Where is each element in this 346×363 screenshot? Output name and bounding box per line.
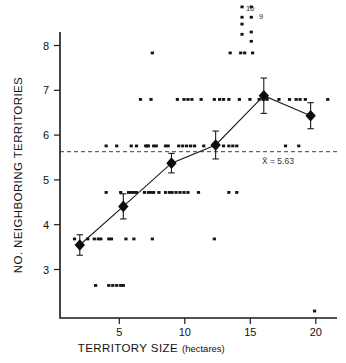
scatter-point: [157, 191, 160, 194]
scatter-point: [182, 191, 185, 194]
scatter-point: [213, 98, 216, 101]
x-tick-5: 5: [116, 326, 122, 338]
scatter-point: [189, 145, 192, 148]
scatter-point: [227, 145, 230, 148]
scatter-point: [176, 98, 179, 101]
offscale-point: [250, 16, 253, 19]
scatter-point: [177, 145, 180, 148]
scatter-point: [132, 238, 135, 241]
y-axis-title: NO. NEIGHBORING TERRITORIES: [12, 77, 24, 273]
mean-reference-label: X̄ = 5.63: [262, 156, 294, 166]
scatter-point: [227, 98, 230, 101]
scatter-point: [105, 191, 108, 194]
scatter-point: [197, 191, 200, 194]
scatter-point: [304, 98, 307, 101]
scatter-point: [190, 98, 193, 101]
scatter-point: [149, 98, 152, 101]
x-tick-20: 20: [310, 326, 322, 338]
scatter-point: [239, 52, 242, 55]
scatter-point: [181, 145, 184, 148]
scatter-point: [178, 191, 181, 194]
scatter-point: [240, 23, 243, 26]
scatter-point: [326, 98, 329, 101]
scatter-point: [94, 284, 97, 287]
scatter-point: [130, 145, 133, 148]
scatter-point: [248, 98, 251, 101]
axis-lines: [60, 32, 337, 318]
y-tick-8: 8: [43, 40, 49, 52]
scatter-point: [284, 145, 287, 148]
scatter-point: [110, 238, 113, 241]
scatter-point: [297, 145, 300, 148]
offscale-label-9: 9: [259, 12, 263, 21]
offscale-point: [240, 16, 243, 19]
scatter-point: [250, 31, 253, 34]
scatter-point: [277, 98, 280, 101]
scatter-point: [229, 52, 232, 55]
offscale-point: [250, 6, 253, 9]
scatter-point: [124, 238, 127, 241]
x-axis-unit: (hectares): [182, 343, 225, 354]
x-tick-15: 15: [244, 326, 256, 338]
offscale-point: [240, 6, 243, 9]
binned-mean-layer: [75, 78, 316, 255]
mean-trend-line: [80, 96, 311, 245]
scatter-point: [164, 191, 167, 194]
scatter-point: [250, 40, 253, 43]
scatter-point: [151, 238, 154, 241]
scatter-point: [202, 145, 205, 148]
scatter-point: [93, 238, 96, 241]
x-axis-title: TERRITORY SIZE: [78, 342, 178, 354]
scatter-point: [171, 191, 174, 194]
scatter-point: [298, 98, 301, 101]
scatter-point: [238, 98, 241, 101]
scatter-point: [143, 191, 146, 194]
scatter-point: [295, 98, 298, 101]
mean-marker-diamond: [305, 110, 315, 122]
scatter-point: [240, 33, 243, 36]
figure-caption-fragment: [6, 356, 8, 362]
scatter-point: [99, 238, 102, 241]
scatter-point: [243, 52, 246, 55]
scatter-point: [111, 284, 114, 287]
scatter-point: [185, 145, 188, 148]
y-tick-7: 7: [43, 84, 49, 96]
chart-svg: 10 9 8 7 6 5 4 3 5 10 15 20: [0, 0, 346, 363]
y-tick-6: 6: [43, 129, 49, 141]
y-tick-3: 3: [43, 264, 49, 276]
scatter-point: [193, 145, 196, 148]
scatter-point: [235, 191, 238, 194]
scatter-point: [186, 98, 189, 101]
scatter-point: [235, 145, 238, 148]
scatter-point: [152, 191, 155, 194]
scatter-point: [222, 98, 225, 101]
scatter-point: [167, 145, 170, 148]
figure-scatter-territory: 10 9 8 7 6 5 4 3 5 10 15 20: [0, 0, 346, 363]
y-tick-4: 4: [43, 219, 49, 231]
scatter-point: [115, 145, 118, 148]
scatter-point: [186, 191, 189, 194]
scatter-point: [182, 98, 185, 101]
scatter-point: [213, 238, 216, 241]
x-tick-10: 10: [179, 326, 191, 338]
scatter-point: [147, 145, 150, 148]
scatter-point: [200, 98, 203, 101]
scatter-point: [122, 284, 125, 287]
scatter-point: [174, 191, 177, 194]
scatter-point: [155, 145, 158, 148]
scatter-point: [115, 284, 118, 287]
offscale-label-10: 10: [246, 4, 254, 13]
mean-marker-diamond: [166, 157, 176, 169]
mean-marker-diamond: [75, 239, 85, 251]
scatter-point: [313, 310, 316, 313]
scatter-point: [218, 98, 221, 101]
scatter-point: [151, 52, 154, 55]
mean-marker-diamond: [118, 201, 128, 213]
scatter-point: [105, 145, 108, 148]
scatter-point: [231, 145, 234, 148]
y-tick-5: 5: [43, 174, 49, 186]
scatter-point: [288, 98, 291, 101]
scatter-point: [107, 284, 110, 287]
scatter-point: [73, 238, 76, 241]
scatter-point: [227, 191, 230, 194]
